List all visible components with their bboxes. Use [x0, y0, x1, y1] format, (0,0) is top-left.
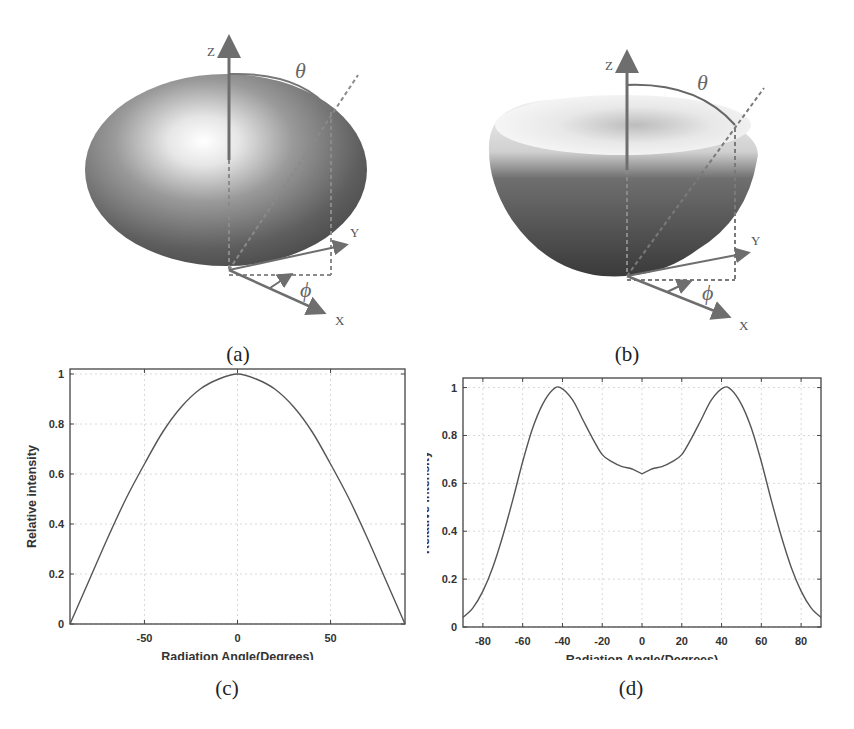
- x-tick-label: 0: [639, 635, 645, 647]
- y-tick-label: 0.4: [442, 525, 458, 537]
- chart-d: -80-60-40-2002040608000.20.40.60.81Radia…: [427, 360, 854, 660]
- y-tick-label: 0.6: [442, 477, 457, 489]
- x-tick-label: -50: [136, 632, 152, 644]
- theta-label: θ: [697, 70, 708, 95]
- y-axis-title: Relative intensity: [427, 451, 432, 554]
- x-axis-title: Radiation Angle(Degrees): [161, 650, 313, 660]
- x-tick-label: -80: [475, 635, 491, 647]
- z-axis-label: Z: [207, 44, 215, 59]
- y-tick-label: 0: [451, 621, 457, 633]
- panel-a-3d-pattern: Z Y X θ ϕ: [0, 0, 427, 340]
- y-tick-label: 1: [58, 368, 64, 380]
- y-tick-label: 0.2: [442, 573, 457, 585]
- y-tick-label: 1: [451, 382, 457, 394]
- y-tick-label: 0.2: [49, 568, 64, 580]
- x-tick-label: -60: [515, 635, 531, 647]
- theta-label: θ: [295, 58, 306, 83]
- y-axis-title: Relative intensity: [25, 445, 39, 548]
- caption-c: (c): [197, 676, 257, 701]
- phi-arc: [270, 275, 290, 288]
- y-axis-label: Y: [350, 225, 360, 240]
- x-tick-label: 20: [676, 635, 688, 647]
- x-tick-label: -20: [594, 635, 610, 647]
- x-tick-label: 50: [324, 632, 336, 644]
- x-axis-label: X: [739, 318, 749, 333]
- x-axis-title: Radiation Angle(Degrees): [566, 653, 718, 660]
- z-axis-label: Z: [605, 58, 613, 73]
- phi-arc: [667, 282, 689, 292]
- x-tick-label: 40: [715, 635, 727, 647]
- bowl-opening: [495, 95, 751, 155]
- x-tick-label: 60: [755, 635, 767, 647]
- x-tick-label: -40: [554, 635, 570, 647]
- series-line: [463, 387, 821, 618]
- chart-c: -5005000.20.40.60.81Radiation Angle(Degr…: [0, 360, 427, 660]
- chart-c-svg: -5005000.20.40.60.81Radiation Angle(Degr…: [0, 360, 427, 660]
- y-tick-label: 0.8: [442, 429, 457, 441]
- caption-d: (d): [601, 676, 661, 701]
- y-tick-label: 0.8: [49, 418, 64, 430]
- y-axis-label: Y: [751, 233, 761, 248]
- x-axis-label: X: [335, 313, 345, 328]
- panel-b-illustration: Z Y X θ ϕ: [427, 0, 854, 340]
- y-tick-label: 0: [58, 618, 64, 630]
- chart-d-svg: -80-60-40-2002040608000.20.40.60.81Radia…: [427, 360, 854, 660]
- phi-label: ϕ: [702, 280, 713, 305]
- panel-b-3d-pattern: Z Y X θ ϕ: [427, 0, 854, 340]
- panel-a-illustration: Z Y X θ ϕ: [0, 0, 427, 340]
- x-tick-label: 80: [795, 635, 807, 647]
- x-tick-label: 0: [234, 632, 240, 644]
- y-tick-label: 0.4: [49, 518, 65, 530]
- phi-label: ϕ: [300, 277, 311, 302]
- y-tick-label: 0.6: [49, 468, 64, 480]
